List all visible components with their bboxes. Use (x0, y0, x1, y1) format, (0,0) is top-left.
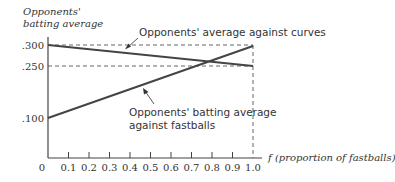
curves-annotation: Opponents' average against curves (139, 26, 326, 38)
fastballs-annotation-line2: against fastballs (129, 119, 215, 131)
x-tick-1.0: 1.0 (245, 162, 261, 173)
fastballs-annotation-line1: Opponents' batting average (129, 106, 277, 118)
curves-line (48, 45, 253, 66)
fastballs-arrowhead-icon (143, 88, 149, 95)
x-tick-0.5: 0.5 (143, 162, 159, 173)
x-tick-0.8: 0.8 (204, 162, 220, 173)
x-tick-0.2: 0.2 (81, 162, 97, 173)
x-tick-0.7: 0.7 (184, 162, 200, 173)
x-tick-0.9: 0.9 (225, 162, 241, 173)
y-tick-250: .250 (22, 61, 44, 72)
x-ticks (69, 152, 233, 158)
curves-arrowhead-icon (125, 44, 131, 50)
x-tick-0.6: 0.6 (163, 162, 179, 173)
x-tick-0: 0 (39, 162, 45, 173)
x-tick-0.3: 0.3 (102, 162, 118, 173)
y-axis-title-line1: Opponents' (23, 6, 81, 17)
y-axis-title-line2: batting average (23, 18, 103, 29)
y-tick-100: .100 (22, 113, 44, 124)
x-tick-0.1: 0.1 (61, 162, 77, 173)
x-axis-title: f (proportion of fastballs) (267, 152, 395, 163)
x-tick-0.4: 0.4 (122, 162, 138, 173)
chart: Opponents' batting average .300 .250 .10… (0, 0, 395, 182)
y-tick-300: .300 (22, 40, 44, 51)
